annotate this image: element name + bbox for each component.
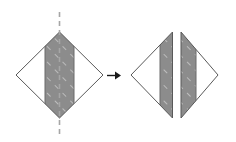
figure-canvas — [0, 0, 236, 142]
right-right-half — [179, 30, 218, 120]
right-right-band-group — [179, 30, 196, 120]
transform-arrow — [107, 72, 121, 80]
right-left-half — [131, 30, 175, 120]
arrow-head — [115, 72, 121, 80]
right-figure-group — [131, 30, 218, 120]
transformation-figure — [0, 0, 236, 142]
right-right-band-hatch — [179, 30, 196, 120]
left-figure-group — [16, 12, 103, 135]
